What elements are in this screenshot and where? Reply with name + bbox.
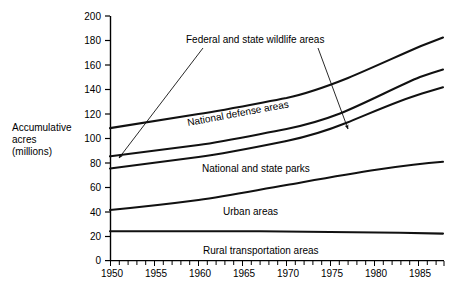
chart-axes bbox=[110, 16, 444, 261]
x-tick-label-1980: 1980 bbox=[365, 268, 388, 279]
y-tick-label-80: 80 bbox=[90, 158, 102, 169]
y-tick-label-200: 200 bbox=[84, 11, 101, 22]
series-label-federal-and-state-wildlife-areas: Federal and state wildlife areas bbox=[186, 34, 324, 45]
series-labels: Federal and state wildlife areas Nationa… bbox=[186, 34, 324, 256]
y-tick-label-60: 60 bbox=[90, 182, 102, 193]
y-tick-label-140: 140 bbox=[84, 84, 101, 95]
x-tick-label-1960: 1960 bbox=[189, 268, 212, 279]
x-tick-label-1955: 1955 bbox=[145, 268, 168, 279]
chart-figure: 200 180 160 140 120 100 80 60 40 20 0 19… bbox=[0, 0, 457, 290]
y-axis-title-line-3: (millions) bbox=[12, 146, 52, 157]
y-tick-label-40: 40 bbox=[90, 207, 102, 218]
y-axis-ticks bbox=[105, 16, 110, 261]
y-tick-label-180: 180 bbox=[84, 35, 101, 46]
y-tick-label-120: 120 bbox=[84, 109, 101, 120]
series-line-federal-and-state-wildlife-areas bbox=[110, 38, 443, 129]
y-axis-tick-labels: 200 180 160 140 120 100 80 60 40 20 0 bbox=[84, 11, 101, 267]
x-axis-tick-labels: 1950 1955 1960 1965 1970 1975 1980 1985 bbox=[101, 268, 432, 279]
y-tick-label-100: 100 bbox=[84, 133, 101, 144]
x-axis-minor-ticks bbox=[111, 261, 445, 266]
y-tick-label-160: 160 bbox=[84, 60, 101, 71]
series-label-rural-transportation-areas: Rural transportation areas bbox=[203, 245, 319, 256]
x-tick-label-1950: 1950 bbox=[101, 268, 124, 279]
series-line-rural-transportation-areas bbox=[110, 231, 443, 233]
callout-leader-lines bbox=[119, 48, 348, 158]
series-label-urban-areas: Urban areas bbox=[223, 206, 278, 217]
y-axis-title-line-2: acres bbox=[12, 134, 36, 145]
x-tick-label-1985: 1985 bbox=[409, 268, 432, 279]
y-axis-title: Accumulative acres (millions) bbox=[12, 122, 72, 157]
x-tick-label-1965: 1965 bbox=[233, 268, 256, 279]
series-label-national-and-state-parks: National and state parks bbox=[202, 163, 310, 174]
y-axis-title-line-1: Accumulative bbox=[12, 122, 72, 133]
y-tick-label-0: 0 bbox=[95, 255, 101, 266]
x-tick-label-1970: 1970 bbox=[277, 268, 300, 279]
x-tick-label-1975: 1975 bbox=[321, 268, 344, 279]
series-paths bbox=[110, 38, 443, 234]
y-tick-label-20: 20 bbox=[90, 231, 102, 242]
line-chart-svg: 200 180 160 140 120 100 80 60 40 20 0 19… bbox=[0, 0, 457, 290]
callout-arrow-to-national-defense bbox=[119, 48, 203, 158]
